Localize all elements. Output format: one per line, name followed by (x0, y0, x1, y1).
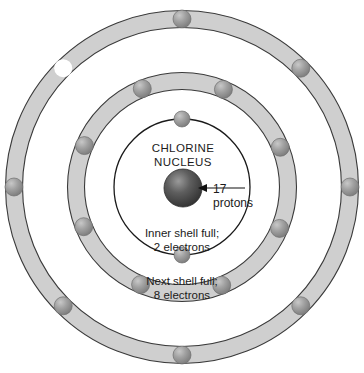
nucleus-label-line-2: NUCLEUS (154, 156, 212, 168)
outer-shell-electron-7 (341, 178, 359, 196)
middle-shell-electron-7 (271, 219, 289, 237)
middle-shell-electron-1 (214, 80, 232, 98)
proton-count-unit: protons (213, 196, 253, 210)
middle-shell-electron-2 (133, 80, 151, 98)
outer-shell-electron-3 (5, 178, 23, 196)
middle-shell-electron-4 (75, 218, 93, 236)
outer-shell-electron-4 (54, 297, 72, 315)
outer-shell-electron-vacancy (54, 59, 72, 77)
atom-diagram-canvas: CHLORINE NUCLEUS 17 protons Inner shell … (0, 0, 364, 373)
next-shell-note-line-1: Next shell full; (146, 275, 218, 287)
next-shell-note-line-2: 8 electrons (154, 289, 211, 301)
nucleus-sphere (164, 169, 202, 207)
chlorine-atom-diagram: CHLORINE NUCLEUS 17 protons Inner shell … (0, 0, 364, 373)
middle-shell-electron-8 (271, 138, 289, 156)
inner-shell-note-line-1: Inner shell full; (145, 227, 219, 239)
outer-shell-electron-1 (173, 10, 191, 28)
inner-shell-electron-1 (174, 111, 190, 127)
proton-count-value: 17 (213, 182, 227, 196)
outer-shell-electron-6 (292, 297, 310, 315)
nucleus-label-line-1: CHLORINE (152, 142, 215, 154)
inner-shell-note-line-2: 2 electrons (154, 241, 211, 253)
outer-shell-electron-5 (173, 346, 191, 364)
middle-shell-electron-3 (75, 137, 93, 155)
outer-shell-electron-8 (292, 59, 310, 77)
nucleus-group (164, 169, 202, 207)
